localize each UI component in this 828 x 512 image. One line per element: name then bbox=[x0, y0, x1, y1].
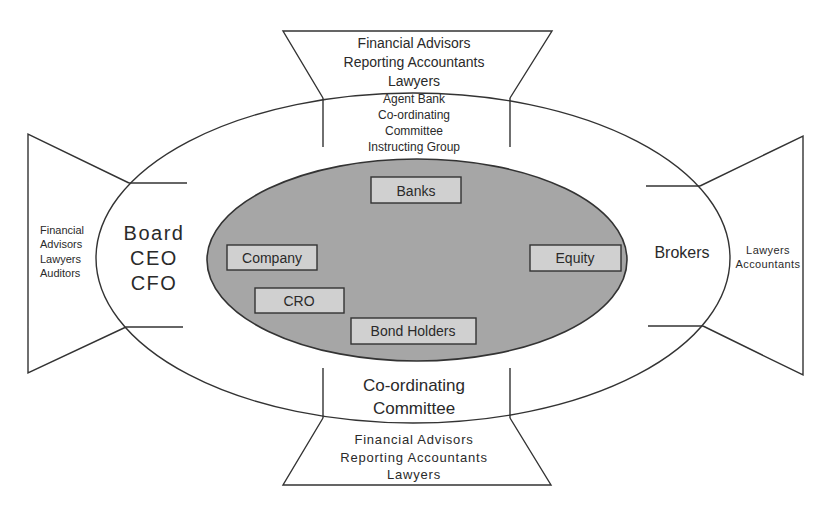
stakeholder-diagram: Financial Advisors Reporting Accountants… bbox=[0, 0, 828, 512]
bottom-outer-line: Financial Advisors bbox=[354, 432, 473, 447]
bottom-inner-text: Co-ordinating Committee bbox=[363, 376, 465, 418]
core-box-company: Company bbox=[227, 245, 317, 270]
core-box-label: Banks bbox=[397, 183, 436, 199]
right-outer-line: Accountants bbox=[736, 258, 801, 270]
core-box-label: CRO bbox=[283, 293, 314, 309]
left-outer-line: Advisors bbox=[40, 238, 83, 250]
right-inner-line: Brokers bbox=[654, 244, 709, 261]
top-inner-line: Co-ordinating bbox=[378, 108, 450, 122]
top-inner-line: Agent Bank bbox=[383, 92, 446, 106]
right-outer-text: Lawyers Accountants bbox=[736, 244, 801, 270]
left-inner-line: Board bbox=[124, 222, 185, 244]
top-outer-line: Reporting Accountants bbox=[344, 54, 485, 70]
bottom-outer-text: Financial Advisors Reporting Accountants… bbox=[340, 432, 488, 482]
left-inner-line: CFO bbox=[131, 272, 178, 294]
top-outer-line: Financial Advisors bbox=[358, 35, 471, 51]
top-inner-text: Agent Bank Co-ordinating Committee Instr… bbox=[368, 92, 460, 154]
left-outer-text: Financial Advisors Lawyers Auditors bbox=[40, 224, 84, 279]
core-box-cro: CRO bbox=[255, 288, 344, 313]
top-outer-text: Financial Advisors Reporting Accountants… bbox=[344, 35, 485, 89]
top-outer-line: Lawyers bbox=[388, 73, 440, 89]
bottom-outer-line: Reporting Accountants bbox=[340, 450, 488, 465]
top-inner-line: Committee bbox=[385, 124, 443, 138]
left-outer-line: Financial bbox=[40, 224, 84, 236]
core-box-banks: Banks bbox=[371, 177, 461, 203]
bottom-inner-line: Committee bbox=[373, 399, 455, 418]
left-inner-text: Board CEO CFO bbox=[124, 222, 185, 294]
left-outer-line: Auditors bbox=[40, 267, 81, 279]
left-inner-line: CEO bbox=[130, 247, 178, 269]
core-box-label: Bond Holders bbox=[371, 323, 456, 339]
top-inner-line: Instructing Group bbox=[368, 140, 460, 154]
bottom-inner-line: Co-ordinating bbox=[363, 376, 465, 395]
left-outer-line: Lawyers bbox=[40, 253, 81, 265]
core-box-label: Equity bbox=[556, 250, 595, 266]
right-outer-line: Lawyers bbox=[746, 244, 790, 256]
core-box-bond-holders: Bond Holders bbox=[351, 318, 476, 344]
bottom-outer-line: Lawyers bbox=[387, 467, 441, 482]
core-box-label: Company bbox=[242, 250, 302, 266]
core-box-equity: Equity bbox=[530, 245, 621, 271]
right-inner-text: Brokers bbox=[654, 244, 709, 261]
